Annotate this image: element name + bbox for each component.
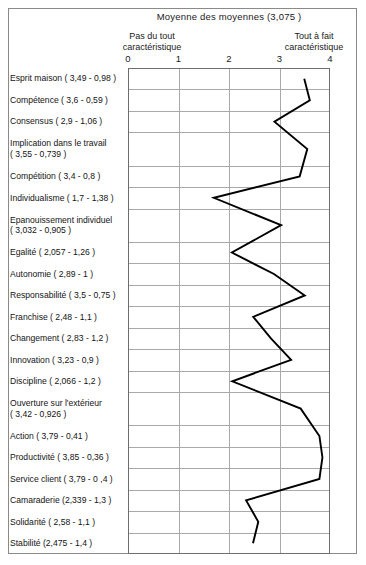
- axis-anchor-low: Pas du tout caractéristique: [104, 31, 200, 52]
- x-tick-2: 2: [219, 53, 239, 64]
- category-label: Action ( 3,79 - 0,41 ): [8, 425, 126, 446]
- category-label: Consensus ( 2,9 - 1,06 ): [8, 111, 126, 132]
- category-label: Ouverture sur l'extérieur( 3,42 - 0,926 …: [8, 392, 126, 425]
- category-label: Compétence ( 3,6 - 0,59 ): [8, 89, 126, 110]
- category-label: Changement ( 2,83 - 1,2 ): [8, 328, 126, 349]
- category-label: Service client ( 3,79 - 0 ,4 ): [8, 468, 126, 489]
- axis-anchor-low-line2: caractéristique: [104, 42, 200, 53]
- category-label: Stabilité (2,475 - 1,4 ): [8, 533, 126, 554]
- category-label: Responsabilité ( 3,5 - 0,75 ): [8, 285, 126, 306]
- x-tick-1: 1: [169, 53, 189, 64]
- category-label: Camaraderie (2,339 - 1,3 ): [8, 490, 126, 511]
- x-tick-4: 4: [320, 53, 340, 64]
- category-label: Compétition ( 3,4 - 0,8 ): [8, 166, 126, 187]
- category-label: Productivité ( 3,85 - 0,36 ): [8, 447, 126, 468]
- category-label: Epanouissement individuel( 3,032 - 0,905…: [8, 209, 126, 242]
- data-series-line: [128, 68, 330, 554]
- category-label: Autonomie ( 2,89 - 1 ): [8, 263, 126, 284]
- axis-anchor-high-line1: Tout à fait: [268, 31, 360, 42]
- axis-anchor-high-line2: caractéristique: [268, 42, 360, 53]
- category-label: Innovation ( 3,23 - 0,9 ): [8, 349, 126, 370]
- x-tick-0: 0: [118, 53, 138, 64]
- axis-anchor-low-line1: Pas du tout: [104, 31, 200, 42]
- chart-figure: Moyenne des moyennes (3,075 ) Pas du tou…: [0, 0, 366, 565]
- category-label: Egalité ( 2,057 - 1,26 ): [8, 242, 126, 263]
- category-label: Esprit maison ( 3,49 - 0,98 ): [8, 68, 126, 89]
- x-tick-3: 3: [270, 53, 290, 64]
- category-axis-labels: Esprit maison ( 3,49 - 0,98 )Compétence …: [8, 68, 128, 554]
- category-label: Implication dans le travail( 3,55 - 0,73…: [8, 132, 126, 165]
- plot-area: [128, 68, 330, 554]
- category-label: Discipline ( 2,066 - 1,2 ): [8, 371, 126, 392]
- x-axis-tick-labels: 01234: [128, 53, 330, 65]
- category-label: Individualisme ( 1,7 - 1,38 ): [8, 187, 126, 208]
- category-label: Franchise ( 2,48 - 1,1 ): [8, 306, 126, 327]
- category-label: Solidarité ( 2,58 - 1,1 ): [8, 511, 126, 532]
- axis-anchor-high: Tout à fait caractéristique: [268, 31, 360, 52]
- chart-title: Moyenne des moyennes (3,075 ): [128, 11, 330, 22]
